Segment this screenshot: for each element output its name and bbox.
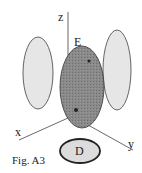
- disk-label: D: [75, 145, 84, 157]
- x-axis-label: x: [15, 126, 21, 138]
- ellipsoid-pole-bottom: [74, 108, 78, 112]
- z-axis-label: z: [58, 11, 63, 23]
- y-axis-label: y: [128, 138, 134, 150]
- ellipsoid-pole-top: [88, 60, 91, 63]
- diagram-canvas: [0, 0, 142, 173]
- figure-a3: z E x y D Fig. A3: [0, 0, 142, 173]
- figure-caption: Fig. A3: [12, 155, 45, 166]
- x-axis: [19, 118, 68, 140]
- left-projection-ellipse: [23, 37, 53, 109]
- ellipsoid-e: [60, 46, 104, 128]
- ellipsoid-label: E: [74, 36, 81, 48]
- right-projection-ellipse: [103, 30, 131, 110]
